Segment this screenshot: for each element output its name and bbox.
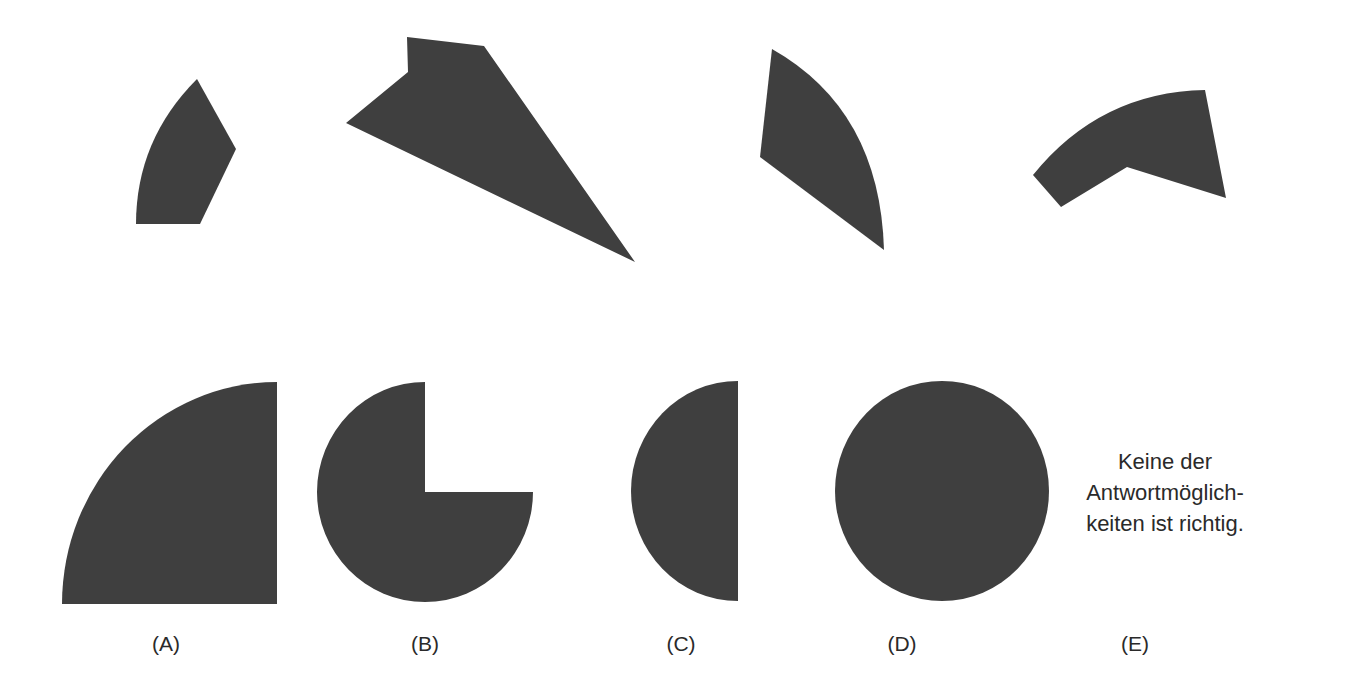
option-e-line-1: Keine der xyxy=(1070,446,1260,477)
puzzle-canvas xyxy=(0,0,1364,694)
option-e-text[interactable]: Keine der Antwortmöglich- keiten ist ric… xyxy=(1070,446,1260,539)
option-e-line-3: keiten ist richtig. xyxy=(1070,508,1260,539)
option-e-line-2: Antwortmöglich- xyxy=(1070,477,1260,508)
puzzle-piece-2 xyxy=(346,37,635,262)
puzzle-piece-3 xyxy=(760,49,884,250)
option-e-label[interactable]: (E) xyxy=(1105,632,1165,656)
puzzle-piece-4 xyxy=(1033,90,1226,207)
option-b-label[interactable]: (B) xyxy=(395,632,455,656)
option-a-quarter-circle[interactable] xyxy=(62,382,277,604)
option-a-label[interactable]: (A) xyxy=(136,632,196,656)
option-c-label[interactable]: (C) xyxy=(651,632,711,656)
option-d-full-circle[interactable] xyxy=(835,381,1049,601)
puzzle-piece-1 xyxy=(136,79,236,224)
option-b-three-quarter-circle[interactable] xyxy=(317,382,533,602)
option-c-half-circle[interactable] xyxy=(631,381,738,601)
option-d-label[interactable]: (D) xyxy=(872,632,932,656)
